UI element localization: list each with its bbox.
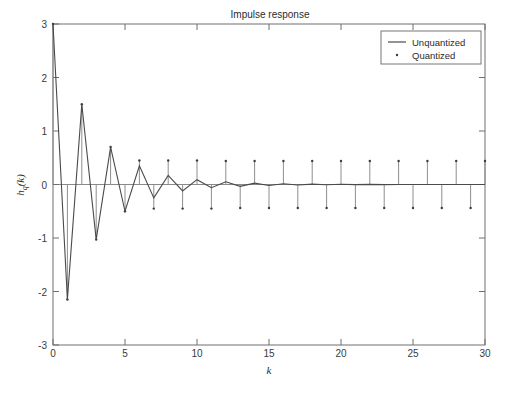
- legend-label-unquantized: Unquantized: [412, 37, 465, 48]
- stem-marker: [253, 160, 255, 162]
- xtick-30: 30: [479, 348, 491, 359]
- stem-marker: [469, 207, 471, 209]
- stem-marker: [311, 160, 313, 162]
- stem-marker: [383, 207, 385, 209]
- stem-marker: [325, 207, 327, 209]
- stem-marker: [181, 207, 183, 209]
- stem-marker: [369, 160, 371, 162]
- stem-marker: [239, 207, 241, 209]
- ytick-2: 2: [41, 73, 47, 84]
- xtick-20: 20: [335, 348, 347, 359]
- impulse-response-chart: Impulse response 0 5 10 15 20: [0, 0, 517, 394]
- ytick-3: 3: [41, 19, 47, 30]
- stem-marker: [225, 160, 227, 162]
- legend-dot-swatch: [396, 54, 398, 56]
- legend[interactable]: Unquantized Quantized: [381, 31, 481, 64]
- chart-title: Impulse response: [231, 9, 310, 20]
- xtick-5: 5: [122, 348, 128, 359]
- y-axis-label-tail: (k): [14, 174, 27, 187]
- stem-marker: [484, 160, 486, 162]
- xtick-25: 25: [407, 348, 419, 359]
- ytick-1: 1: [41, 126, 47, 137]
- xtick-15: 15: [263, 348, 275, 359]
- stem-marker: [153, 207, 155, 209]
- stem-marker: [354, 207, 356, 209]
- stem-marker: [441, 207, 443, 209]
- stem-marker: [196, 159, 198, 161]
- stem-marker: [268, 207, 270, 209]
- stem-marker: [340, 160, 342, 162]
- xtick-10: 10: [191, 348, 203, 359]
- stem-marker: [138, 159, 140, 161]
- stem-marker: [297, 207, 299, 209]
- stem-marker: [426, 160, 428, 162]
- ytick-0: 0: [41, 180, 47, 191]
- stem-marker: [455, 160, 457, 162]
- stem-marker: [397, 160, 399, 162]
- ytick-m3: -3: [38, 340, 47, 351]
- xtick-0: 0: [50, 348, 56, 359]
- stem-marker: [167, 159, 169, 161]
- ytick-m1: -1: [38, 233, 47, 244]
- legend-label-quantized: Quantized: [412, 50, 455, 61]
- stem-marker: [282, 160, 284, 162]
- stem-marker: [412, 207, 414, 209]
- figure-container: Impulse response 0 5 10 15 20: [0, 0, 517, 394]
- ytick-m2: -2: [38, 287, 47, 298]
- stem-marker: [210, 207, 212, 209]
